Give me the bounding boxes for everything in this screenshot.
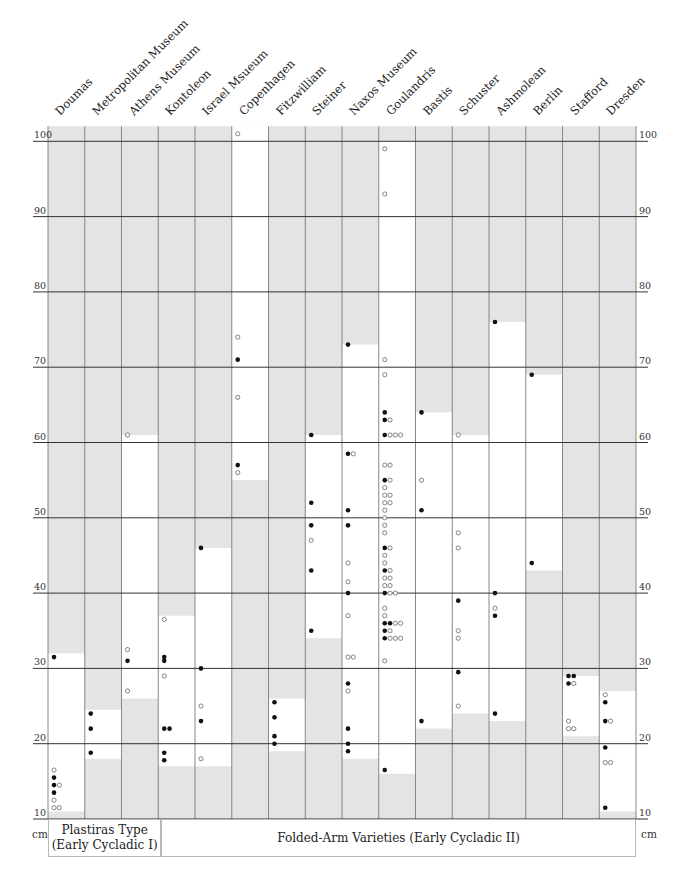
open-dot xyxy=(383,606,387,610)
open-dot xyxy=(393,621,397,625)
open-dot xyxy=(199,704,203,708)
y-tick-left-20: 20 xyxy=(34,732,46,743)
open-dot xyxy=(603,693,607,697)
open-dot xyxy=(572,727,576,731)
filled-dot xyxy=(162,750,167,755)
filled-dot xyxy=(382,433,387,438)
open-dot xyxy=(388,629,392,633)
y-tick-right-60: 60 xyxy=(639,431,651,442)
filled-dot xyxy=(603,700,608,705)
filled-dot xyxy=(346,523,351,528)
filled-dot xyxy=(382,768,387,773)
open-dot xyxy=(456,636,460,640)
open-dot xyxy=(52,806,56,810)
open-dot xyxy=(383,501,387,505)
open-dot xyxy=(383,523,387,527)
y-tick-left-80: 80 xyxy=(34,280,46,291)
open-dot xyxy=(393,433,397,437)
open-dot xyxy=(399,433,403,437)
filled-dot xyxy=(382,636,387,641)
open-dot xyxy=(399,636,403,640)
filled-dot xyxy=(382,478,387,483)
open-dot xyxy=(388,591,392,595)
open-dot xyxy=(603,760,607,764)
group-label-text: Plastiras Type(Early Cycladic I) xyxy=(52,823,158,853)
filled-dot xyxy=(235,357,240,362)
filled-dot xyxy=(309,500,314,505)
open-dot xyxy=(236,335,240,339)
filled-dot xyxy=(346,681,351,686)
filled-dot xyxy=(52,775,57,780)
filled-dot xyxy=(566,674,571,679)
filled-dot xyxy=(603,745,608,750)
filled-dot xyxy=(88,726,93,731)
filled-dot xyxy=(566,681,571,686)
filled-dot xyxy=(162,659,167,664)
filled-dot xyxy=(603,805,608,810)
filled-dot xyxy=(419,508,424,513)
open-dot xyxy=(383,614,387,618)
filled-dot xyxy=(88,750,93,755)
open-dot xyxy=(351,655,355,659)
filled-dot xyxy=(529,372,534,377)
open-dot xyxy=(346,689,350,693)
open-dot xyxy=(383,192,387,196)
open-dot xyxy=(566,719,570,723)
open-dot xyxy=(383,553,387,557)
open-dot xyxy=(608,719,612,723)
filled-dot xyxy=(419,410,424,415)
filled-dot xyxy=(199,666,204,671)
unit-label-left: cm xyxy=(32,828,48,840)
range-bar-15 xyxy=(599,691,636,811)
y-tick-left-40: 40 xyxy=(34,581,46,592)
filled-dot xyxy=(199,719,204,724)
open-dot xyxy=(57,806,61,810)
filled-dot xyxy=(309,568,314,573)
filled-dot xyxy=(419,719,424,724)
open-dot xyxy=(399,621,403,625)
filled-dot xyxy=(382,568,387,573)
open-dot xyxy=(52,798,56,802)
open-dot xyxy=(309,538,313,542)
open-dot xyxy=(393,591,397,595)
y-tick-left-70: 70 xyxy=(34,355,46,366)
filled-dot xyxy=(162,758,167,763)
open-dot xyxy=(236,132,240,136)
group-label-plastiras: Plastiras Type(Early Cycladic I) xyxy=(48,819,161,857)
y-tick-left-60: 60 xyxy=(34,431,46,442)
filled-dot xyxy=(272,734,277,739)
range-bar-5 xyxy=(232,126,269,480)
filled-dot xyxy=(493,591,498,596)
filled-dot xyxy=(456,598,461,603)
open-dot xyxy=(346,655,350,659)
open-dot xyxy=(388,636,392,640)
open-dot xyxy=(456,433,460,437)
open-dot xyxy=(346,580,350,584)
open-dot xyxy=(383,147,387,151)
open-dot xyxy=(388,463,392,467)
filled-dot xyxy=(346,508,351,513)
open-dot xyxy=(383,463,387,467)
open-dot xyxy=(572,681,576,685)
open-dot xyxy=(346,561,350,565)
open-dot xyxy=(383,583,387,587)
open-dot xyxy=(125,647,129,651)
open-dot xyxy=(388,568,392,572)
open-dot xyxy=(236,395,240,399)
filled-dot xyxy=(382,621,387,626)
open-dot xyxy=(388,493,392,497)
open-dot xyxy=(388,501,392,505)
filled-dot xyxy=(52,790,57,795)
open-dot xyxy=(383,531,387,535)
filled-dot xyxy=(346,726,351,731)
open-dot xyxy=(493,606,497,610)
open-dot xyxy=(199,757,203,761)
filled-dot xyxy=(162,726,167,731)
open-dot xyxy=(419,478,423,482)
open-dot xyxy=(383,576,387,580)
open-dot xyxy=(388,433,392,437)
filled-dot xyxy=(529,561,534,566)
filled-dot xyxy=(603,719,608,724)
open-dot xyxy=(383,561,387,565)
open-dot xyxy=(388,576,392,580)
